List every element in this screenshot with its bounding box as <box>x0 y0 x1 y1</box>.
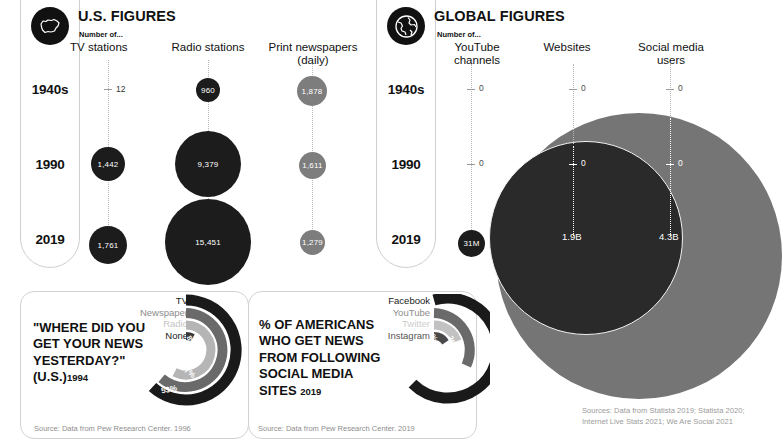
us-col-header-tv: TV stations <box>70 41 160 54</box>
global-websites-connector-upper <box>573 64 574 144</box>
card-left-year: 1994 <box>67 372 88 383</box>
us-number-of-label: Number of... <box>79 30 123 39</box>
card-right-donut <box>378 294 490 406</box>
card-right-source: Source: Data from Pew Research Center. 2… <box>258 424 415 433</box>
global-col-header-youtube: YouTube channels <box>434 41 520 67</box>
global-social-connector-upper <box>670 64 671 116</box>
global-sources: Sources: Data from Statista 2019; Statis… <box>582 406 745 427</box>
us-col-header-radio: Radio stations <box>163 41 253 54</box>
globe-icon <box>387 7 425 45</box>
us-tv-tick-1940s <box>104 89 112 90</box>
global-social-tick-1940s <box>666 89 674 90</box>
us-tv-bubble-1990: 1,442 <box>91 147 125 181</box>
us-tv-value-1940s: 12 <box>116 84 125 94</box>
card-left-donut <box>130 294 242 406</box>
us-radio-bubble-1940s: 960 <box>196 78 220 102</box>
global-youtube-value-1990: 0 <box>479 158 484 168</box>
card-left-source: Source: Data from Pew Research Center. 1… <box>34 424 191 433</box>
us-radio-bubble-1990: 9,379 <box>175 131 241 197</box>
us-radio-bubble-2019: 15,451 <box>165 199 251 285</box>
global-websites-value-1990: 0 <box>581 158 586 168</box>
card-right-year: 2019 <box>300 386 321 397</box>
global-social-value-2019: 4.3B <box>659 231 679 242</box>
global-websites-value-1940s: 0 <box>581 83 586 93</box>
global-year-label-1990: 1990 <box>376 157 436 172</box>
global-websites-bubble-2019 <box>489 141 683 335</box>
global-websites-value-2019: 1.9B <box>562 231 582 242</box>
global-col-header-social: Social media users <box>624 41 718 67</box>
global-col-header-websites: Websites <box>524 41 610 54</box>
us-map-icon <box>31 7 69 45</box>
global-social-value-1940s: 0 <box>678 83 683 93</box>
global-social-value-1990: 0 <box>678 158 683 168</box>
us-year-label-1990: 1990 <box>20 157 80 172</box>
card-right-pct-facebook: 52% <box>410 372 426 381</box>
global-websites-tick-1990 <box>569 164 577 165</box>
us-col-header-newspapers: Print newspapers (daily) <box>265 41 361 67</box>
infographic-root: U.S. FIGURES Number of... TV stations Ra… <box>0 0 783 442</box>
global-social-connector-lower <box>670 118 671 236</box>
us-tv-bubble-2019: 1,761 <box>89 226 127 264</box>
global-number-of-label: Number of... <box>437 30 481 39</box>
global-year-label-1940s: 1940s <box>376 82 436 97</box>
global-year-label-2019: 2019 <box>376 232 436 247</box>
us-newspapers-bubble-1990: 1,611 <box>299 152 326 179</box>
global-websites-tick-1940s <box>569 89 577 90</box>
us-year-label-1940s: 1940s <box>20 82 80 97</box>
us-year-label-2019: 2019 <box>20 232 80 247</box>
us-newspapers-bubble-1940s: 1,878 <box>297 76 327 106</box>
global-social-tick-1990 <box>666 164 674 165</box>
us-panel-title: U.S. FIGURES <box>78 8 176 24</box>
us-newspapers-bubble-2019: 1,279 <box>300 230 325 255</box>
global-youtube-bubble-2019: 31M <box>458 230 485 257</box>
global-youtube-tick-1940s <box>467 89 475 90</box>
global-youtube-value-1940s: 0 <box>479 83 484 93</box>
global-websites-connector-lower <box>573 146 574 236</box>
global-youtube-tick-1990 <box>467 164 475 165</box>
global-panel-title: GLOBAL FIGURES <box>434 8 565 24</box>
